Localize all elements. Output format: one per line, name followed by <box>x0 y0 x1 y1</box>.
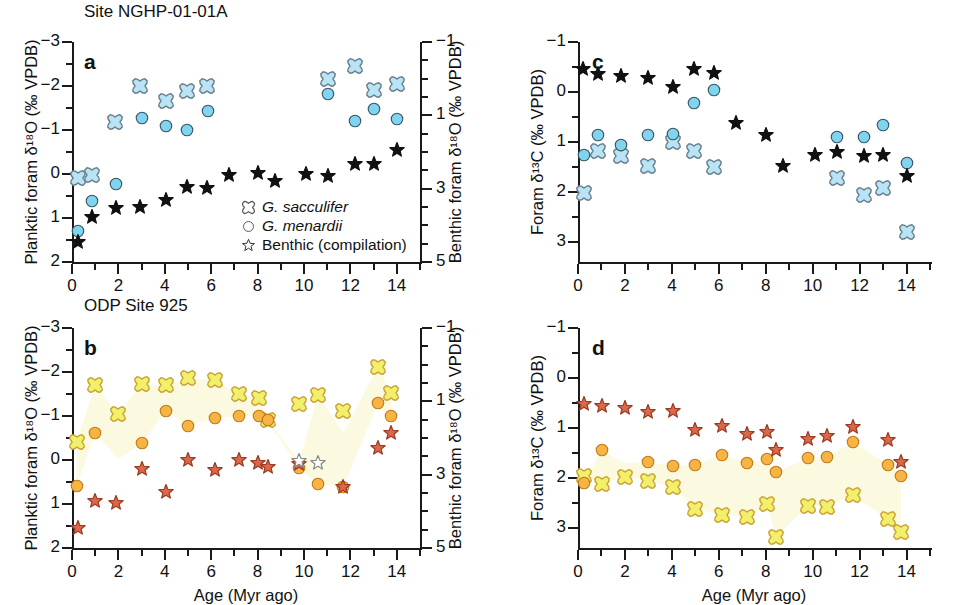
circle-open-icon <box>238 217 258 236</box>
panel-d-x-tick-major <box>577 550 579 560</box>
panel-d-x-tick-major <box>671 550 673 560</box>
panel-d-y-tick-minor <box>572 352 578 354</box>
panel-d-x-tick-minor <box>647 550 649 556</box>
panel-d-x-tick-minor <box>882 550 884 556</box>
panel-d-x-tick-major <box>718 550 720 560</box>
panel-d-x-tick-major <box>765 550 767 560</box>
legend-item-label: G. sacculifer <box>262 198 348 216</box>
panel-d-letter: d <box>592 336 605 360</box>
figure-root: −3−2−1012−113502468101214aSite NGHP-01-0… <box>0 0 954 605</box>
panel-d-y-tick-minor <box>572 402 578 404</box>
panel-d-y-tick-minor <box>572 452 578 454</box>
panel-d-x-tick-minor <box>929 550 931 556</box>
panel-d-x-tick-major <box>906 550 908 560</box>
panel-d-y-tick-major <box>568 527 578 529</box>
panel-d-y-tick-major <box>568 427 578 429</box>
panel-d-x-ticklabel: 0 <box>558 562 598 582</box>
panel-d-x-ticklabel: 6 <box>699 562 739 582</box>
panel-d-x-axis-line <box>578 548 932 550</box>
panel-d-x-tick-minor <box>741 550 743 556</box>
panel-d: −1012302468101214dForam δ¹³C (‰ VPDB)Age… <box>0 0 954 605</box>
uncertainty-envelope <box>0 0 954 605</box>
panel-d-y-axis-line <box>578 328 580 550</box>
panel-d-x-ticklabel: 12 <box>840 562 880 582</box>
panel-d-y-tick-major <box>568 377 578 379</box>
panel-d-x-ticklabel: 4 <box>652 562 692 582</box>
panel-d-x-ticklabel: 8 <box>746 562 786 582</box>
legend-item-label: G. menardii <box>262 217 342 235</box>
legend-item-label: Benthic (compilation) <box>262 236 407 254</box>
panel-d-x-tick-major <box>624 550 626 560</box>
cross-open-icon <box>238 198 258 217</box>
panel-d-y-tick-minor <box>572 502 578 504</box>
panel-d-x-tick-minor <box>694 550 696 556</box>
panel-d-x-tick-minor <box>835 550 837 556</box>
panel-d-x-ticklabel: 2 <box>605 562 645 582</box>
panel-d-x-tick-minor <box>788 550 790 556</box>
star-open-icon <box>238 236 258 255</box>
panel-d-y-tick-major <box>568 477 578 479</box>
panel-d-y-axis-title: Foram δ¹³C (‰ VPDB) <box>528 324 547 552</box>
panel-d-x-ticklabel: 10 <box>793 562 833 582</box>
panel-d-y-tick-major <box>568 327 578 329</box>
panel-d-x-tick-minor <box>600 550 602 556</box>
panel-d-x-axis-title: Age (Myr ago) <box>578 586 930 605</box>
panel-d-x-tick-major <box>812 550 814 560</box>
panel-d-x-ticklabel: 14 <box>887 562 927 582</box>
panel-d-x-tick-major <box>859 550 861 560</box>
